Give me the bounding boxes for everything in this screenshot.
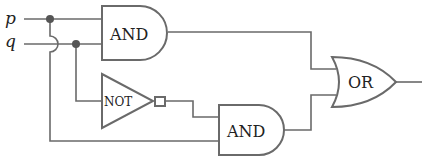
and-gate-bottom: AND [219,105,284,155]
not-bubble [155,97,165,106]
not-gate: NOT [102,74,165,128]
logic-circuit-diagram: p q AND NOT AND OR [0,0,431,166]
wire-q-branch-to-not [76,44,102,101]
or-gate-label: OR [348,73,374,92]
wire-and1-to-or [168,32,336,69]
wire-and2-to-or [284,95,336,130]
input-label-q: q [5,31,16,51]
input-label-p: p [5,8,16,28]
or-gate: OR [332,57,396,107]
and-gate-top: AND [102,6,167,60]
junction-q [72,40,80,48]
and-gate-bottom-label: AND [226,122,265,141]
junction-p [46,15,54,23]
and-gate-top-label: AND [109,25,148,44]
not-gate-label: NOT [104,95,132,109]
wire-not-to-and2 [165,101,219,117]
